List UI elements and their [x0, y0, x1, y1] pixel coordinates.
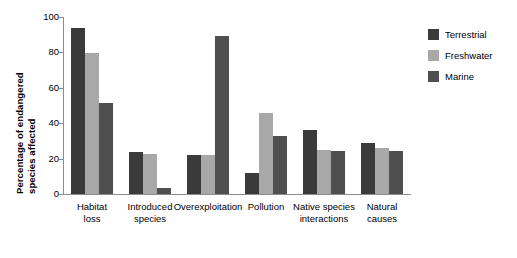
bar — [389, 151, 403, 194]
bar — [129, 152, 143, 194]
bar — [187, 155, 201, 194]
y-axis-tick-label: 100 — [35, 12, 59, 22]
bar — [259, 113, 273, 194]
bar — [331, 151, 345, 194]
y-axis-tick — [59, 194, 63, 195]
y-axis-tick-label: 60 — [35, 83, 59, 93]
bar — [303, 130, 317, 194]
legend-swatch — [428, 71, 439, 82]
bar — [215, 36, 229, 194]
legend-label: Terrestrial — [445, 28, 487, 41]
y-axis-tick — [59, 17, 63, 18]
legend-label: Marine — [445, 70, 474, 83]
y-axis-line — [63, 17, 64, 195]
y-axis-tick-label: 80 — [35, 47, 59, 57]
legend-item: Freshwater — [428, 49, 514, 64]
y-axis-title-line-1: Percentage of endangered — [14, 72, 25, 194]
x-axis-line — [63, 194, 411, 195]
x-axis-category-label: Natural causes — [340, 201, 424, 225]
y-axis-tick-label: 0 — [35, 189, 59, 199]
bar — [201, 155, 215, 194]
y-axis-tick — [59, 88, 63, 89]
y-axis-tick-labels: 020406080100 — [33, 17, 59, 195]
y-axis-tick-label: 20 — [35, 154, 59, 164]
bar — [273, 136, 287, 194]
y-axis-tick — [59, 159, 63, 160]
legend-item: Marine — [428, 70, 514, 85]
bar — [71, 28, 85, 194]
chart-figure: Percentage of endangered species affecte… — [0, 0, 517, 258]
legend: TerrestrialFreshwaterMarine — [428, 28, 514, 91]
bar — [85, 53, 99, 194]
bar — [157, 188, 171, 194]
y-axis-tick — [59, 123, 63, 124]
legend-label: Freshwater — [445, 49, 493, 62]
y-axis-tick-label: 40 — [35, 118, 59, 128]
bar — [143, 154, 157, 194]
legend-item: Terrestrial — [428, 28, 514, 43]
y-axis-title: Percentage of endangered species affecte… — [0, 0, 34, 200]
plot-area — [63, 17, 411, 195]
bar — [317, 150, 331, 194]
y-axis-tick — [59, 52, 63, 53]
legend-swatch — [428, 50, 439, 61]
bar — [361, 143, 375, 194]
bar — [375, 148, 389, 194]
bar — [99, 103, 113, 194]
legend-swatch — [428, 29, 439, 40]
bar — [245, 173, 259, 194]
